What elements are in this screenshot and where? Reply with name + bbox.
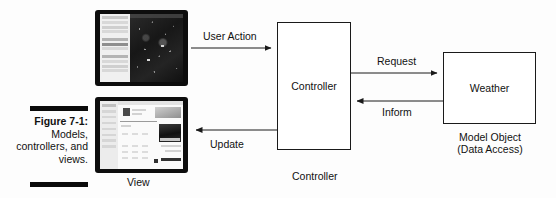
arrow-label-update: Update bbox=[210, 138, 244, 150]
arrow-label-request: Request bbox=[377, 55, 416, 67]
weather-box[interactable]: Weather bbox=[443, 52, 536, 124]
detail-sidebar-row bbox=[102, 134, 116, 137]
map-sidebar-row-selected bbox=[102, 43, 128, 46]
caption-rule-top bbox=[30, 106, 88, 111]
map-sidebar-group bbox=[102, 38, 128, 41]
detail-grid-cell bbox=[142, 133, 148, 135]
arrow-label-user-action: User Action bbox=[203, 30, 257, 42]
detail-sidebar-header bbox=[102, 104, 116, 107]
detail-divider bbox=[120, 121, 157, 122]
detail-sidebar-row bbox=[102, 145, 116, 148]
detail-grid-cell bbox=[132, 145, 138, 147]
detail-text-line bbox=[132, 113, 142, 115]
view-map-screen bbox=[100, 14, 183, 82]
map-toolbar bbox=[130, 14, 183, 18]
map-sidebar-row bbox=[102, 60, 128, 63]
map-marker bbox=[161, 45, 164, 47]
figure-caption: Figure 7-1: Models, controllers, and vie… bbox=[8, 115, 88, 165]
detail-poster bbox=[159, 124, 181, 142]
detail-grid-cell bbox=[142, 151, 148, 153]
caption-rule-bottom bbox=[30, 182, 88, 187]
caption-model-object-line1: Model Object bbox=[459, 131, 521, 143]
map-sidebar-group bbox=[102, 55, 128, 58]
map-marker bbox=[147, 59, 150, 61]
view-detail-screen bbox=[100, 101, 183, 169]
detail-poster-caption bbox=[160, 138, 180, 141]
controller-box-label: Controller bbox=[291, 80, 337, 92]
map-sidebar-row bbox=[102, 30, 128, 33]
detail-thumbnail bbox=[123, 108, 130, 116]
detail-grid-cell bbox=[142, 145, 148, 147]
detail-text-line bbox=[132, 109, 146, 111]
detail-text-line bbox=[161, 145, 181, 147]
caption-model-object-line2: (Data Access) bbox=[457, 143, 522, 155]
detail-hero-image bbox=[155, 107, 181, 118]
view-map-tablet bbox=[95, 10, 188, 86]
detail-grid-cell bbox=[132, 133, 138, 135]
detail-sidebar-row bbox=[102, 128, 116, 131]
detail-block bbox=[154, 159, 158, 163]
detail-sidebar-row bbox=[102, 122, 116, 125]
view-detail-tablet bbox=[95, 97, 188, 173]
figure-root: Figure 7-1: Models, controllers, and vie… bbox=[0, 0, 556, 198]
detail-grid-cell bbox=[122, 157, 128, 159]
detail-grid-cell bbox=[122, 145, 128, 147]
detail-sidebar-row bbox=[102, 116, 116, 119]
detail-grid-cell bbox=[132, 151, 138, 153]
weather-box-label: Weather bbox=[470, 82, 510, 94]
figure-description: Models, controllers, and views. bbox=[8, 128, 88, 166]
detail-text-line bbox=[165, 150, 181, 152]
detail-sidebar-row bbox=[102, 139, 116, 142]
detail-sidebar bbox=[100, 101, 118, 169]
controller-box[interactable]: Controller bbox=[277, 22, 351, 150]
detail-grid-cell bbox=[142, 157, 148, 159]
detail-text-line bbox=[121, 125, 131, 127]
caption-controller: Controller bbox=[292, 170, 338, 182]
detail-sidebar-row bbox=[102, 110, 116, 113]
detail-content bbox=[118, 101, 183, 169]
map-sidebar-row bbox=[102, 47, 128, 50]
map-sidebar-header bbox=[102, 16, 128, 19]
caption-view: View bbox=[127, 176, 150, 188]
caption-model-object: Model Object (Data Access) bbox=[444, 131, 536, 156]
map-sidebar-row bbox=[102, 21, 128, 24]
figure-number: Figure 7-1: bbox=[8, 115, 88, 128]
map-sidebar-row bbox=[102, 65, 128, 68]
map-canvas bbox=[130, 14, 183, 82]
map-sidebar bbox=[100, 14, 130, 82]
map-sidebar-row bbox=[102, 26, 128, 29]
detail-grid-cell bbox=[122, 151, 128, 153]
detail-block bbox=[161, 158, 181, 161]
detail-grid-cell bbox=[132, 157, 138, 159]
detail-grid-cell bbox=[122, 133, 128, 135]
arrow-label-inform: Inform bbox=[382, 106, 412, 118]
detail-toolbar bbox=[118, 101, 183, 105]
map-sidebar-row bbox=[102, 69, 128, 72]
